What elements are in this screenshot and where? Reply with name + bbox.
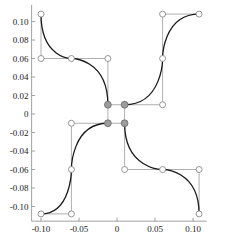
- joint-point-marker: [104, 101, 111, 108]
- control-point-marker: [68, 56, 74, 62]
- control-point-marker: [38, 211, 44, 217]
- x-tick-label: 0.05: [147, 224, 163, 232]
- joint-point-marker: [104, 120, 111, 127]
- control-point-marker: [122, 167, 128, 173]
- control-point-marker: [196, 211, 202, 217]
- x-tick-label: -0.05: [70, 224, 89, 232]
- control-point-marker: [105, 56, 111, 62]
- control-point-marker: [196, 11, 202, 17]
- control-point-marker: [160, 102, 166, 108]
- control-point-marker: [68, 211, 74, 217]
- bezier-spline-chart: -0.10-0.0500.050.10 0.100.080.060.040.02…: [0, 0, 235, 232]
- control-point-marker: [38, 56, 44, 62]
- control-point-marker: [160, 56, 166, 62]
- y-tick-label: -0.06: [10, 165, 29, 175]
- x-tick-label: 0.10: [185, 224, 201, 232]
- x-tick-label: -0.10: [32, 224, 51, 232]
- control-point-marker: [68, 167, 74, 173]
- y-tick-label: -0.04: [10, 146, 29, 156]
- y-tick-label: 0.02: [13, 91, 29, 101]
- chart-background: [0, 0, 235, 232]
- y-tick-label: 0.04: [13, 72, 29, 82]
- control-point-marker: [68, 120, 74, 126]
- y-tick-label: -0.08: [10, 183, 29, 193]
- y-tick-label: 0.06: [13, 54, 29, 64]
- y-tick-label: -0.02: [10, 128, 29, 138]
- control-point-marker: [38, 11, 44, 17]
- y-tick-label: 0.08: [13, 35, 29, 45]
- control-point-marker: [160, 167, 166, 173]
- joint-point-marker: [121, 101, 128, 108]
- control-point-marker: [196, 167, 202, 173]
- y-tick-label: 0.10: [13, 17, 29, 27]
- joint-point-marker: [121, 120, 128, 127]
- y-tick-label: -0.10: [10, 202, 29, 212]
- x-tick-label: 0: [115, 224, 120, 232]
- control-point-marker: [160, 11, 166, 17]
- y-tick-label: 0: [24, 109, 29, 119]
